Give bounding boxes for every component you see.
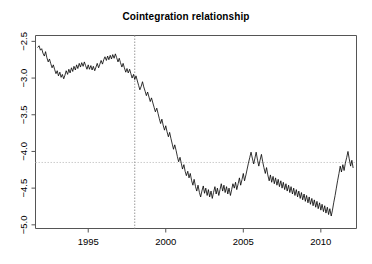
- x-axis-tick-label: 2000: [155, 236, 176, 247]
- y-axis-tick-label: −2.5: [18, 32, 29, 51]
- y-axis-tick-labels: −2.5−3.0−3.5−4.0−4.5−5.0: [18, 32, 29, 234]
- x-axis-tick-labels: 1995200020052010: [78, 236, 332, 247]
- cointegration-residual-series: [38, 46, 353, 216]
- y-axis-tick-marks: [32, 41, 36, 224]
- x-axis-tick-marks: [88, 229, 321, 233]
- x-axis-tick-label: 1995: [78, 236, 99, 247]
- x-axis-tick-label: 2005: [233, 236, 254, 247]
- x-axis-tick-label: 2010: [310, 236, 331, 247]
- y-axis-tick-label: −4.0: [18, 142, 29, 161]
- y-axis-tick-label: −4.5: [18, 179, 29, 198]
- y-axis-tick-label: −3.0: [18, 69, 29, 88]
- y-axis-tick-label: −5.0: [18, 215, 29, 234]
- chart-figure: Cointegration relationship −2.5−3.0−3.5−…: [0, 0, 372, 264]
- cointegration-line-chart: −2.5−3.0−3.5−4.0−4.5−5.0 199520002005201…: [0, 0, 372, 264]
- y-axis-tick-label: −3.5: [18, 105, 29, 124]
